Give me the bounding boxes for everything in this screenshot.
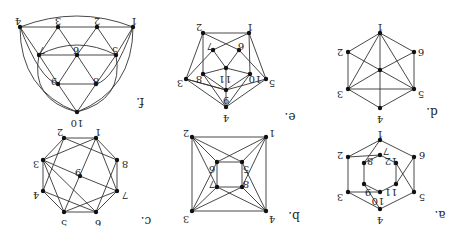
graph-b: 12568743b. xyxy=(183,128,300,225)
vertex-label: 9 xyxy=(75,167,81,178)
vertex-label: 6 xyxy=(419,150,425,161)
graph-edge xyxy=(192,137,242,162)
graph-edge xyxy=(43,138,64,160)
graph-edge xyxy=(203,68,226,74)
vertex-label: 2 xyxy=(337,150,343,161)
vertex-label: 2 xyxy=(57,127,63,138)
vertex-label: 5 xyxy=(243,164,249,175)
vertex-label: 1 xyxy=(131,16,137,27)
graph-edge xyxy=(43,191,96,212)
graph-edge xyxy=(242,137,266,162)
vertex-label: 4 xyxy=(377,215,383,226)
vertex-label: 1 xyxy=(377,22,383,33)
vertex-label: 6 xyxy=(238,41,244,52)
vertex-label: 8 xyxy=(196,74,202,85)
vertex-label: 12 xyxy=(385,156,398,167)
graph-edge xyxy=(192,187,217,211)
graph-vertex xyxy=(190,209,194,213)
graph-vertex xyxy=(224,88,228,92)
vertex-label: 7 xyxy=(209,179,215,190)
vertex-label: 8 xyxy=(93,76,99,87)
vertex-label: 6 xyxy=(418,47,424,58)
graph-vertex xyxy=(378,190,382,194)
vertex-label: 9 xyxy=(365,187,371,198)
graph-edge xyxy=(20,27,39,55)
graph-vertex xyxy=(75,110,79,114)
vertex-label: 4 xyxy=(377,114,383,125)
graph-d: 126354d. xyxy=(337,22,438,125)
vertex-label: 3 xyxy=(33,159,39,170)
vertex-label: 9 xyxy=(223,95,229,106)
vertex-label: 10 xyxy=(71,118,84,129)
graph-edge xyxy=(96,138,117,191)
vertex-label: 8 xyxy=(367,156,373,167)
graph-vertex xyxy=(41,189,45,193)
graph-vertex xyxy=(41,158,45,162)
graph-vertex xyxy=(362,182,366,186)
graph-caption: f. xyxy=(136,95,144,109)
graph-vertex xyxy=(412,190,416,194)
graph-edge xyxy=(96,138,117,160)
graph-edge xyxy=(43,160,96,212)
vertex-label: 1 xyxy=(95,127,101,138)
graph-edge xyxy=(226,68,250,74)
graph-caption: b. xyxy=(288,209,300,223)
graph-edge xyxy=(96,160,117,212)
vertex-label: 5 xyxy=(61,218,67,227)
graph-edge xyxy=(396,163,414,192)
vertex-label: 9 xyxy=(51,76,57,87)
graph-edge xyxy=(249,33,266,79)
graph-edge xyxy=(213,50,226,68)
vertex-label: 4 xyxy=(15,16,21,27)
graph-edge xyxy=(80,176,117,191)
graph-f: 43217659810f. xyxy=(15,16,144,129)
vertex-label: 11 xyxy=(219,74,232,85)
vertex-label: 2 xyxy=(196,22,202,33)
vertex-label: 3 xyxy=(337,89,343,100)
graph-edge xyxy=(192,187,242,211)
graph-diagram-figure: 126781211910354a.12568743b.128397465c.12… xyxy=(0,0,461,226)
graph-edge xyxy=(217,187,266,211)
graph-vertex xyxy=(115,189,119,193)
graph-edge xyxy=(348,52,380,70)
graph-vertex xyxy=(94,210,98,214)
vertex-label: 4 xyxy=(269,214,275,225)
vertex-label: 2 xyxy=(183,128,189,139)
graph-edge xyxy=(58,55,77,84)
vertex-label: 10 xyxy=(249,74,262,85)
vertex-label: 2 xyxy=(94,16,100,27)
graph-vertex xyxy=(412,87,416,91)
graph-edge xyxy=(396,157,414,184)
graph-edge xyxy=(242,187,266,211)
graph-vertex xyxy=(394,182,398,186)
graph-edge xyxy=(380,89,414,108)
graph-vertex xyxy=(346,155,350,159)
graph-caption: d. xyxy=(426,105,438,119)
vertex-label: 8 xyxy=(122,159,128,170)
graph-vertex xyxy=(264,209,268,213)
graph-vertex xyxy=(264,135,268,139)
vertex-label: 5 xyxy=(112,45,118,56)
vertex-label: 10 xyxy=(372,196,385,207)
graph-vertex xyxy=(378,207,382,211)
graph-edge xyxy=(380,70,414,89)
graph-edge xyxy=(348,140,380,157)
graph-vertex xyxy=(184,77,188,81)
graph-a: 126781211910354a. xyxy=(337,129,446,226)
graph-vertex xyxy=(190,135,194,139)
vertex-label: 8 xyxy=(243,179,249,190)
graph-vertex xyxy=(412,50,416,54)
vertex-label: 2 xyxy=(337,47,343,58)
graph-vertex xyxy=(115,158,119,162)
graph-arc-edge xyxy=(20,16,133,27)
graph-edge xyxy=(186,33,203,79)
graph-edge xyxy=(96,191,117,212)
graph-edge xyxy=(380,52,414,70)
graph-vertex xyxy=(346,50,350,54)
graph-edge xyxy=(348,70,380,89)
vertex-label: 4 xyxy=(33,190,39,201)
vertex-label: 7 xyxy=(207,41,213,52)
graph-edge xyxy=(249,33,250,74)
vertex-label: 3 xyxy=(177,78,183,89)
vertex-label: 5 xyxy=(419,192,425,203)
